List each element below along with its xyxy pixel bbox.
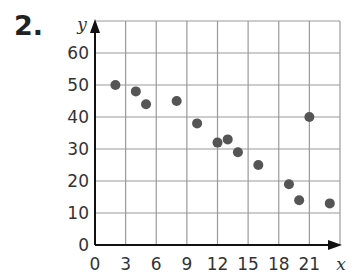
- y-tick-label: 50: [67, 75, 89, 95]
- data-point: [294, 195, 304, 205]
- data-point: [304, 112, 314, 122]
- data-point: [223, 134, 233, 144]
- x-axis-label: x: [336, 254, 346, 274]
- y-tick-label: 40: [67, 107, 89, 127]
- x-tick-label: 3: [120, 254, 131, 274]
- x-tick-label: 18: [268, 254, 290, 274]
- data-point: [192, 118, 202, 128]
- data-point: [131, 86, 141, 96]
- scatter-plot: 0369121518210102030405060xy: [0, 0, 355, 279]
- y-tick-label: 0: [78, 235, 89, 255]
- data-point: [141, 99, 151, 109]
- x-tick-label: 6: [151, 254, 162, 274]
- y-tick-label: 20: [67, 171, 89, 191]
- data-point: [110, 80, 120, 90]
- data-point: [213, 138, 223, 148]
- data-point: [253, 160, 263, 170]
- y-tick-label: 10: [67, 203, 89, 223]
- x-tick-label: 0: [90, 254, 101, 274]
- x-tick-label: 12: [207, 254, 229, 274]
- x-tick-label: 9: [181, 254, 192, 274]
- y-tick-label: 60: [67, 43, 89, 63]
- data-point: [325, 198, 335, 208]
- data-point: [233, 147, 243, 157]
- x-tick-label: 21: [299, 254, 321, 274]
- y-axis-label: y: [76, 14, 87, 34]
- x-tick-label: 15: [237, 254, 259, 274]
- y-tick-label: 30: [67, 139, 89, 159]
- data-point: [284, 179, 294, 189]
- data-point: [172, 96, 182, 106]
